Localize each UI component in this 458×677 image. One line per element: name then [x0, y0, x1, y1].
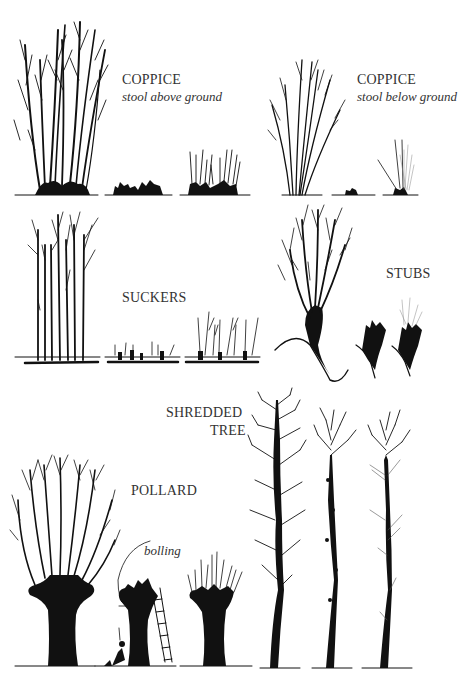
pollard-regrowth	[180, 552, 252, 666]
bolling-annotation: bolling	[144, 543, 181, 559]
suckers-regrowth	[185, 312, 260, 362]
stubs-regrowth	[392, 298, 422, 376]
coppice-above-sublabel: stool above ground	[122, 89, 222, 105]
stubs-grown	[275, 205, 352, 381]
shredded-grown	[248, 388, 306, 668]
suckers-cut	[105, 342, 180, 362]
shredded-label-line1: SHREDDED	[166, 405, 242, 421]
stubs-cut	[356, 320, 386, 378]
suckers-label: SUCKERS	[122, 290, 186, 306]
pollard-grown	[10, 455, 120, 666]
coppice-below-sublabel: stool below ground	[357, 89, 457, 105]
coppice-below-cut	[332, 188, 375, 195]
shredded-cut	[312, 408, 356, 668]
coppice-below-regrowth	[378, 140, 418, 195]
coppice-below-grown	[268, 60, 345, 195]
pollard-cut	[95, 541, 176, 666]
shredded-regrowth	[362, 410, 412, 668]
coppice-above-label: COPPICE	[122, 72, 181, 88]
coppice-below-label: COPPICE	[357, 72, 416, 88]
stubs-label: STUBS	[386, 266, 431, 282]
coppice-above-grown	[14, 22, 108, 195]
pollard-label: POLLARD	[131, 483, 197, 499]
illustration-canvas: COPPICE stool above ground COPPICE stool…	[0, 0, 458, 677]
coppice-above-regrowth	[180, 150, 250, 195]
coppice-above-cut	[105, 180, 172, 195]
shredded-label-line2: TREE	[210, 423, 246, 439]
suckers-grown	[15, 212, 100, 363]
